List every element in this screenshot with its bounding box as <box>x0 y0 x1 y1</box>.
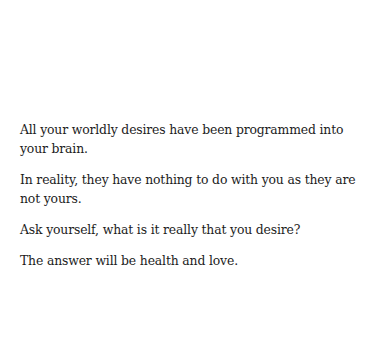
document-page: All your worldly desires have been progr… <box>0 0 370 351</box>
paragraph-ask-yourself: Ask yourself, what is it really that you… <box>20 220 360 239</box>
paragraph-in-reality: In reality, they have nothing to do with… <box>20 170 360 208</box>
document-body: All your worldly desires have been progr… <box>20 120 360 282</box>
paragraph-worldly-desires: All your worldly desires have been progr… <box>20 120 360 158</box>
paragraph-the-answer: The answer will be health and love. <box>20 251 360 270</box>
